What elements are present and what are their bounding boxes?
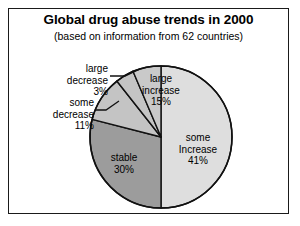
slice-label-line2: decrease [14, 109, 94, 121]
slice-label-value: 30% [96, 164, 152, 176]
slice-label-line2: decrease [34, 75, 108, 87]
slice-label-value: 11% [14, 120, 94, 132]
slice-label-some-decrease: some decrease 11% [14, 97, 94, 132]
slice-label-value: 41% [164, 155, 232, 167]
slice-label-line2: increase [126, 85, 196, 97]
slice-label-large-decrease: large decrease 3% [34, 63, 108, 98]
slice-label-line2: Increase [164, 144, 232, 156]
slice-label-line1: some [14, 97, 94, 109]
slice-label-line1: large [34, 63, 108, 75]
chart-screenshot: Global drug abuse trends in 2000 (based … [0, 0, 300, 226]
slice-label-large-increase: large increase 15% [126, 73, 196, 108]
slice-label-line1: stable [96, 152, 152, 164]
slice-label-line1: some [164, 132, 232, 144]
slice-label-stable: stable 30% [96, 152, 152, 175]
slice-label-value: 15% [126, 96, 196, 108]
slice-label-some-increase: some Increase 41% [164, 132, 232, 167]
slice-label-value: 3% [34, 86, 108, 98]
slice-label-line1: large [126, 73, 196, 85]
